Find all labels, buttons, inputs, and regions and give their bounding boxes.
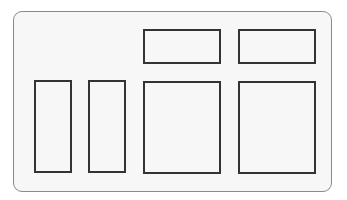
box-top-right [238, 29, 316, 64]
box-narrow-1 [34, 80, 72, 173]
box-wide-2 [238, 81, 316, 174]
box-top-left [143, 29, 221, 64]
box-wide-1 [143, 81, 221, 174]
box-narrow-2 [88, 80, 126, 173]
